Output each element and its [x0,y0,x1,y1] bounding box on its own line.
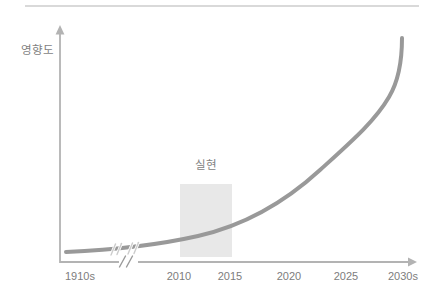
x-tick-1910s: 1910s [57,270,103,283]
x-axis-break-icon [120,256,133,267]
y-axis-label: 영향도 [14,44,54,57]
x-tick-2010: 2010 [156,270,202,283]
chart-canvas: 영향도 실현 1910s 2010 2015 2020 2025 2030s [0,0,442,299]
x-tick-2030s: 2030s [380,270,426,283]
highlight-band [180,184,232,257]
chart-graphics [0,0,442,299]
growth-curve [66,38,402,252]
highlight-label: 실현 [180,159,232,172]
x-tick-2015: 2015 [207,270,253,283]
x-tick-2025: 2025 [323,270,369,283]
x-tick-2020: 2020 [266,270,312,283]
x-axis-arrow-icon [408,258,417,267]
y-axis-arrow-icon [56,25,65,35]
